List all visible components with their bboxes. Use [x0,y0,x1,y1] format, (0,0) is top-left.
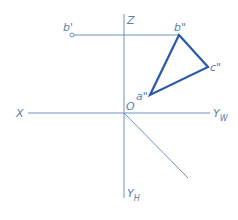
label-c-double: c" [210,61,221,74]
label-z: Z [126,14,135,27]
label-a-double: a" [136,90,148,103]
label-yw: YW [213,107,229,123]
label-b-double: b" [174,21,186,34]
triangle-abc-side-view [150,35,208,95]
label-b-prime: b' [63,21,73,34]
miter-line [124,113,188,178]
projection-diagram: Z X O YW YH b' b" c" a" [0,0,238,220]
label-x: X [15,107,24,120]
label-origin: O [126,100,135,113]
label-yh: YH [127,187,140,203]
